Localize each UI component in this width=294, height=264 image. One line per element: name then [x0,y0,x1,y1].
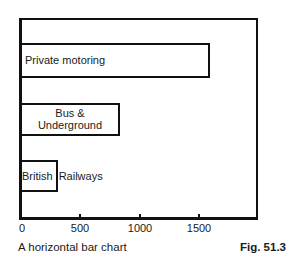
figure-container: Private motoring Bus &Underground Britis… [0,0,294,264]
chart-caption: A horizontal bar chart [18,240,127,254]
axis-tick-label-0: 0 [19,222,25,235]
axis-tick-label-1000: 1000 [128,222,152,235]
axis-tick-label-500: 500 [71,222,89,235]
figure-number: Fig. 51.3 [240,240,286,254]
axis-tick-500 [79,214,81,220]
axis-tick-1000 [139,214,141,220]
bar-label-bus-underground: Bus &Underground [18,107,122,131]
bar-label-british-railways: British Railways [22,170,103,182]
bar-label-bus-underground-line1: Bus & [55,107,84,119]
bar-label-bus-underground-line2: Underground [38,119,102,131]
bar-label-private-motoring: Private motoring [25,54,105,66]
axis-tick-1500 [198,214,200,220]
axis-tick-label-1500: 1500 [187,222,211,235]
